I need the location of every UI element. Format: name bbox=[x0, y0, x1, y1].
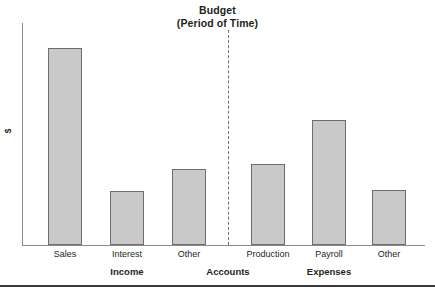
bar-sales bbox=[48, 48, 82, 245]
bar-income-other bbox=[172, 169, 206, 245]
bar-interest bbox=[110, 191, 144, 245]
plot-area bbox=[0, 0, 435, 290]
bar-expenses-other bbox=[372, 190, 406, 245]
tick-label-interest: Interest bbox=[97, 249, 157, 259]
tick-label-sales: Sales bbox=[35, 249, 95, 259]
bar-production bbox=[251, 164, 285, 245]
tick-label-income-other: Other bbox=[159, 249, 219, 259]
bottom-rule bbox=[0, 285, 435, 287]
budget-bar-chart: Budget (Period of Time) $ Sales Interest… bbox=[0, 0, 435, 290]
tick-label-production: Production bbox=[238, 249, 298, 259]
group-label-expenses: Expenses bbox=[284, 266, 374, 277]
group-label-accounts: Accounts bbox=[183, 266, 273, 277]
tick-label-expenses-other: Other bbox=[359, 249, 419, 259]
group-label-income: Income bbox=[82, 266, 172, 277]
tick-label-payroll: Payroll bbox=[299, 249, 359, 259]
bar-payroll bbox=[312, 120, 346, 245]
